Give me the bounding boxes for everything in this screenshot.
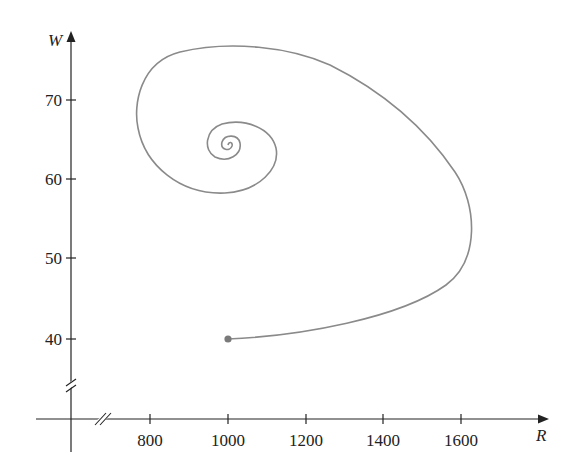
y-axis-arrow-icon <box>67 31 76 42</box>
x-tick-label-1200: 1200 <box>289 431 323 450</box>
trajectory-curve <box>137 46 472 339</box>
x-tick-label-1600: 1600 <box>444 431 478 450</box>
x-axis-label: R <box>535 426 547 445</box>
y-tick-label-50: 50 <box>45 249 62 268</box>
x-tick-label-800: 800 <box>137 431 163 450</box>
y-axis-label: W <box>48 31 64 50</box>
y-tick-label-60: 60 <box>45 170 62 189</box>
x-axis-arrow-icon <box>538 415 549 424</box>
y-tick-label-70: 70 <box>45 91 62 110</box>
y-tick-label-40: 40 <box>45 330 62 349</box>
phase-plot: 70 60 50 40 800 1000 1200 1400 1600 W R <box>0 0 569 468</box>
start-point-marker <box>224 335 231 342</box>
x-tick-label-1000: 1000 <box>211 431 245 450</box>
x-tick-label-1400: 1400 <box>366 431 400 450</box>
